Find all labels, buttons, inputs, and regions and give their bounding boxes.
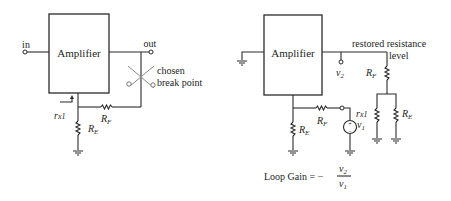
- v2-label: v2: [336, 67, 344, 80]
- right-re-right-label: RE: [401, 108, 413, 121]
- right-rx-resistor-icon: [375, 108, 379, 122]
- right-re-resistor-icon: [291, 122, 295, 136]
- rx-arrow-icon: [60, 97, 72, 102]
- right-rf-top-label: RF: [365, 67, 377, 80]
- break-label-break-point: break point: [157, 77, 202, 88]
- input-terminal: [23, 50, 27, 54]
- equation-denominator: v1: [339, 178, 347, 191]
- output-terminal: [149, 50, 153, 54]
- right-re-label: RE: [298, 124, 310, 137]
- ground-icon: [73, 151, 83, 155]
- right-rf-resistor-icon: [316, 106, 327, 110]
- equation-lhs: Loop Gain = −: [264, 171, 324, 182]
- ground-icon: [391, 139, 401, 143]
- left-circuit: Amplifier in out chosen break point RF r…: [22, 14, 202, 155]
- ground-icon: [345, 151, 355, 155]
- ground-icon: [372, 139, 382, 143]
- v1-terminal: [340, 106, 344, 110]
- left-amplifier-label: Amplifier: [57, 47, 101, 59]
- output-label: out: [144, 38, 157, 49]
- left-rf-resistor-icon: [101, 105, 112, 109]
- v1-label: v1: [357, 119, 365, 132]
- feedback-loop-gain-diagram: Amplifier in out chosen break point RF r…: [0, 0, 451, 201]
- source-plus: +: [348, 121, 352, 127]
- right-amplifier-label: Amplifier: [271, 47, 315, 59]
- equation-numerator: v2: [339, 163, 347, 176]
- right-rx-label: rx1: [356, 108, 367, 119]
- restored-level-label: level: [389, 50, 409, 61]
- break-label-chosen: chosen: [157, 65, 185, 76]
- right-rf-label: RF: [316, 115, 328, 128]
- loop-gain-equation: Loop Gain = − v2 v1: [264, 163, 351, 191]
- left-re-label: RE: [87, 123, 99, 136]
- restored-resistance-label: restored resistance: [352, 38, 427, 49]
- left-re-resistor-icon: [76, 121, 80, 135]
- left-rf-label: RF: [100, 113, 112, 126]
- input-label: in: [22, 39, 30, 50]
- left-rx-label: rx1: [54, 110, 65, 121]
- v2-terminal: [339, 60, 343, 64]
- ground-icon: [237, 61, 247, 65]
- right-re-resistor-icon: [394, 108, 398, 122]
- right-rf-top-resistor-icon: [385, 66, 389, 80]
- right-circuit: Amplifier v2 restored resistance level R…: [237, 15, 427, 191]
- source-minus: −: [348, 128, 352, 134]
- ground-icon: [288, 151, 298, 155]
